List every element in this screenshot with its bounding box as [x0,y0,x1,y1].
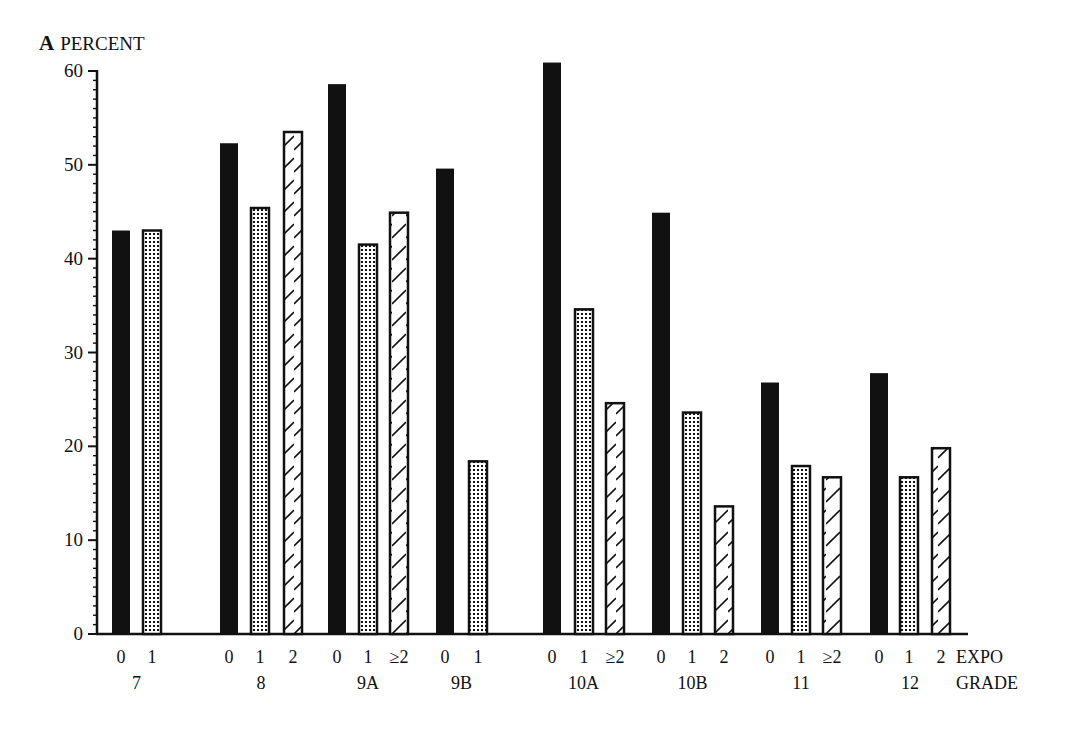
expo-label: 1 [688,647,697,667]
expo-label: ≥2 [823,647,842,667]
y-tick-label: 0 [74,623,84,644]
expo-label: 2 [937,647,946,667]
grade-row-label: GRADE [956,673,1018,693]
bar-9A-expo-1 [359,245,377,634]
bar-11-expo-1 [792,466,810,634]
bar-12-expo-0 [870,373,888,634]
y-tick-label: 20 [64,435,83,456]
bar-12-expo-2 [932,448,950,634]
bar-7-expo-0 [112,231,130,634]
grade-label: 10A [568,673,599,693]
y-tick-label: 50 [64,154,83,175]
expo-label: 2 [720,647,729,667]
expo-label: 1 [256,647,265,667]
expo-label: 0 [225,647,234,667]
bar-group-grade-9B [436,169,487,634]
bar-10B-expo-1 [683,413,701,634]
bar-11-expo-0 [761,383,779,634]
bar-chart: APERCENT 0102030405060 017012801≥29A019B… [0,0,1068,732]
bar-12-expo-1 [900,477,918,634]
y-tick-label: 10 [64,529,83,550]
bar-10A-expo-0 [543,63,561,634]
bar-8-expo-2 [284,132,302,634]
bar-8-expo-0 [220,143,238,634]
expo-label: 0 [548,647,557,667]
x-axis-labels: 017012801≥29A019B01≥210A01210B01≥2110121… [117,647,1019,693]
y-tick-label: 60 [64,60,83,81]
expo-label: ≥2 [606,647,625,667]
expo-label: 1 [474,647,483,667]
bars [112,63,950,634]
bar-11-expo-≥2 [823,477,841,634]
expo-label: 0 [657,647,666,667]
bar-10B-expo-0 [652,213,670,634]
expo-label: 1 [797,647,806,667]
expo-label: 1 [905,647,914,667]
y-tick-label: 30 [64,342,83,363]
bar-group-grade-10A [543,63,624,634]
expo-label: 1 [148,647,157,667]
bar-group-grade-7 [112,231,161,634]
grade-label: 8 [257,673,266,693]
bar-9A-expo-0 [328,84,346,634]
bar-8-expo-1 [251,208,269,634]
bar-group-grade-8 [220,132,302,634]
bar-group-grade-10B [652,213,733,634]
expo-label: ≥2 [390,647,409,667]
bar-group-grade-11 [761,383,841,634]
grade-label: 9A [357,673,379,693]
plot-area: 0102030405060 017012801≥29A019B01≥210A01… [0,0,1068,732]
bar-group-grade-12 [870,373,950,634]
expo-label: 1 [364,647,373,667]
bar-9B-expo-0 [436,169,454,634]
grade-label: 9B [451,673,472,693]
grade-label: 11 [792,673,809,693]
expo-label: 1 [580,647,589,667]
expo-label: 0 [333,647,342,667]
expo-label: 2 [289,647,298,667]
expo-label: 0 [766,647,775,667]
grade-label: 7 [132,673,141,693]
expo-label: 0 [441,647,450,667]
expo-label: 0 [875,647,884,667]
bar-10A-expo-≥2 [606,403,624,634]
bar-10A-expo-1 [575,309,593,634]
grade-label: 10B [677,673,707,693]
bar-7-expo-1 [143,231,161,634]
bar-10B-expo-2 [715,506,733,634]
y-tick-label: 40 [64,248,83,269]
bar-group-grade-9A [328,84,408,634]
bar-9A-expo-≥2 [390,213,408,634]
grade-label: 12 [901,673,919,693]
expo-label: 0 [117,647,126,667]
bar-9B-expo-1 [469,461,487,634]
expo-row-label: EXPO [956,647,1003,667]
